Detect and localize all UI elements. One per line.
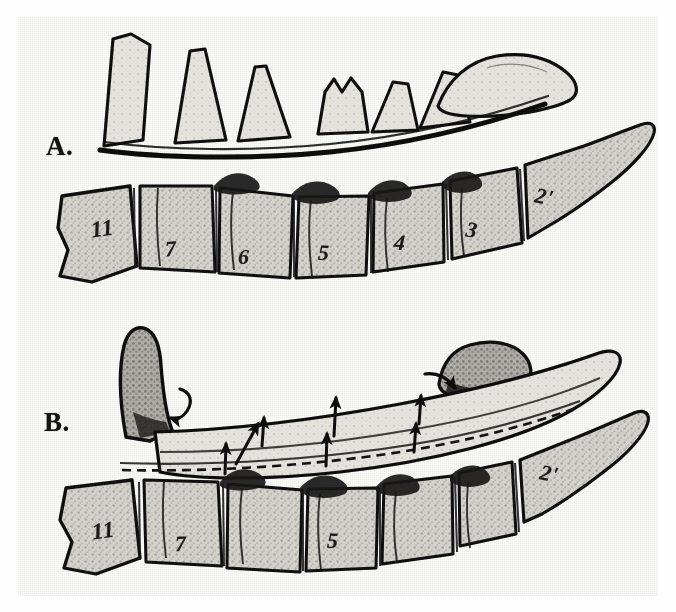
panel-a-spinous-processes bbox=[104, 34, 576, 146]
panel-b-left-fragment bbox=[120, 328, 172, 441]
straight-arrow-4 bbox=[326, 434, 327, 466]
panel-a-vertebra-number-4: 4 bbox=[393, 230, 406, 257]
panel-a-artwork bbox=[58, 34, 654, 282]
straight-arrow-5 bbox=[334, 398, 336, 436]
panel-a-vertebra-number-0: 11 bbox=[89, 215, 115, 244]
figure-canvas: A. B. 11765432' 11752' bbox=[0, 0, 676, 612]
panel-a-vertebra-number-3: 5 bbox=[318, 240, 330, 266]
straight-arrow-1 bbox=[225, 444, 226, 474]
panel-a-label: A. bbox=[46, 133, 73, 160]
straight-arrow-3 bbox=[262, 418, 264, 446]
panel-b-vertebra-number-0: 11 bbox=[90, 517, 116, 546]
panel-b-vertebra-number-2: 5 bbox=[327, 528, 339, 554]
panel-a-vertebra-number-2: 6 bbox=[238, 244, 250, 270]
straight-arrow-7 bbox=[419, 396, 421, 424]
panel-b-vertebra-number-1: 7 bbox=[175, 531, 187, 557]
panel-a-vertebra-number-1: 7 bbox=[164, 236, 177, 263]
curved-arrow-left bbox=[171, 389, 190, 419]
panel-b-label: B. bbox=[44, 409, 70, 436]
straight-arrow-6 bbox=[414, 424, 416, 452]
panel-b-artwork bbox=[60, 328, 648, 574]
